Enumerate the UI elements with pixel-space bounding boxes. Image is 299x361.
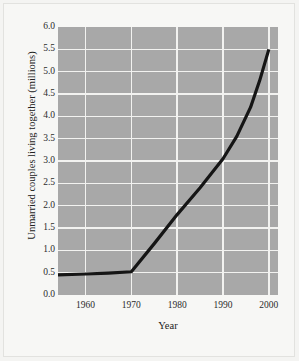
x-axis-tick-label: 1960: [76, 301, 95, 311]
y-axis-tick-labels: 0.00.51.01.52.02.53.03.54.04.55.05.56.0: [18, 27, 55, 295]
y-axis-tick-label: 0.0: [21, 290, 55, 300]
line-series-unmarried-couples: [58, 49, 269, 275]
x-axis-tick-label: 2000: [259, 301, 278, 311]
y-axis-title: Unmarried couples living together (milli…: [26, 21, 37, 271]
x-axis-tick-label: 1990: [214, 301, 233, 311]
x-axis-tick-label: 1980: [168, 301, 187, 311]
x-axis-title: Year: [58, 320, 278, 331]
chart-figure: 0.00.51.01.52.02.53.03.54.04.55.05.56.0 …: [0, 0, 299, 361]
plot-area: [58, 27, 278, 295]
x-axis-tick-labels: 19601970198019902000: [58, 301, 278, 315]
data-series-layer: [58, 27, 278, 295]
x-axis-tick-label: 1970: [122, 301, 141, 311]
